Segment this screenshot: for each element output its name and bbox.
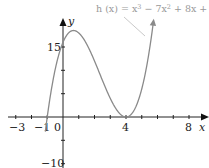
function-label: h (x) = x3 − 7x2 + 8x + 16 xyxy=(96,3,209,14)
x-tick-label: 0 xyxy=(54,121,61,134)
x-axis-label: x xyxy=(199,121,206,134)
x-tick-label: −3 xyxy=(9,121,25,134)
y-tick-label: −10 xyxy=(41,157,64,168)
y-axis-arrow-icon xyxy=(60,18,67,26)
x-tick-label: −1 xyxy=(34,121,50,134)
function-curve xyxy=(45,22,153,132)
x-axis-arrow-icon xyxy=(201,114,209,121)
curve-arrow-icon xyxy=(150,19,156,26)
cubic-function-chart: −3 −1 0 4 8 15 −10 x y h (x) = x3 − 7x2 … xyxy=(0,0,209,168)
x-tick-label: 4 xyxy=(122,121,129,134)
label-pointer xyxy=(124,17,145,36)
y-axis-label: y xyxy=(67,15,75,28)
x-tick-label: 8 xyxy=(185,121,192,134)
